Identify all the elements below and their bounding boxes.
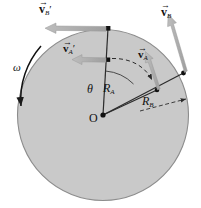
label-v-a: → v A — [138, 49, 148, 62]
center-point-o — [100, 112, 105, 117]
label-theta: θ — [87, 83, 93, 95]
label-v-b-prime-mark: ′ — [49, 3, 51, 15]
vector-arrow-icon: → — [39, 0, 45, 7]
rotation-velocity-diagram: → v B′ → v B → v A′ → v A ω θ RA RB O — [0, 0, 201, 208]
label-v-a-sub: A — [144, 54, 148, 62]
label-center-o: O — [89, 112, 98, 124]
point-b-prime-marker — [106, 26, 111, 31]
label-radius-b-sub: B — [149, 101, 153, 109]
diagram-canvas — [0, 0, 201, 208]
vector-arrow-icon: → — [63, 38, 69, 47]
point-a-prime-marker — [106, 58, 110, 62]
label-v-b: → v B — [161, 6, 171, 20]
label-v-a-prime: → v A′ — [63, 43, 75, 56]
label-radius-b: RB — [142, 95, 154, 109]
vector-arrow-icon: → — [161, 1, 167, 10]
vector-arrow-icon: → — [138, 44, 144, 53]
label-radius-a: RA — [103, 82, 115, 96]
label-v-b-sub: B — [167, 12, 171, 20]
label-radius-a-sub: A — [110, 88, 114, 96]
label-v-a-prime-mark: ′ — [73, 42, 75, 54]
label-omega: ω — [13, 62, 21, 73]
label-v-b-prime: → v B′ — [39, 3, 52, 17]
